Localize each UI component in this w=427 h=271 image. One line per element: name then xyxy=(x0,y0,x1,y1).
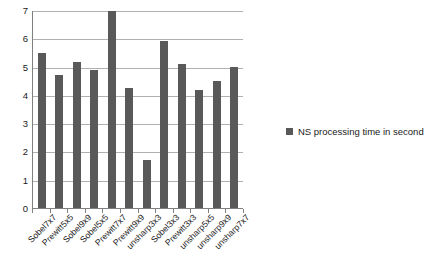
plot-area xyxy=(32,11,243,209)
bar-slot xyxy=(68,11,86,208)
bar-slot xyxy=(156,11,174,208)
plot-wrapper: 7 6 5 4 3 2 1 0 Sobel7x7Prewitt5x5Sobel9… xyxy=(0,0,250,271)
bar-slot xyxy=(33,11,51,208)
legend-swatch-icon xyxy=(286,128,293,135)
bar-slot xyxy=(121,11,139,208)
y-tick-label: 0 xyxy=(23,204,28,214)
bar xyxy=(108,11,116,208)
x-axis-category-labels: Sobel7x7Prewitt5x5Sobel9x9Sobel5x5Prewit… xyxy=(32,213,247,271)
y-tick-label: 6 xyxy=(23,35,28,45)
y-tick-label: 7 xyxy=(23,6,28,16)
bars-layer xyxy=(33,11,243,208)
bar-slot xyxy=(226,11,244,208)
bar-slot xyxy=(86,11,104,208)
bar-slot xyxy=(208,11,226,208)
bar-chart: 7 6 5 4 3 2 1 0 Sobel7x7Prewitt5x5Sobel9… xyxy=(0,0,427,271)
y-tick-label: 2 xyxy=(23,148,28,158)
bar-slot xyxy=(138,11,156,208)
legend: NS processing time in second xyxy=(286,127,424,137)
y-tick-label: 3 xyxy=(23,119,28,129)
bar xyxy=(160,41,168,208)
bar-slot xyxy=(191,11,209,208)
y-tick-label: 4 xyxy=(23,91,28,101)
bar-slot xyxy=(51,11,69,208)
y-tick-label: 1 xyxy=(23,176,28,186)
bar xyxy=(38,53,46,208)
y-axis-tick-labels: 7 6 5 4 3 2 1 0 xyxy=(10,11,28,209)
y-tick-label: 5 xyxy=(23,63,28,73)
bar-slot xyxy=(173,11,191,208)
bar xyxy=(73,62,81,208)
bar-slot xyxy=(103,11,121,208)
legend-label: NS processing time in second xyxy=(298,127,424,137)
bar xyxy=(55,75,63,208)
